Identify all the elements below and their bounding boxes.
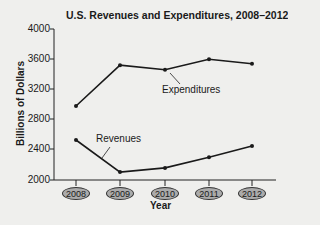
expenditures-line <box>76 59 252 106</box>
expenditures-annotation: Expenditures <box>162 84 220 95</box>
x-tick-2011: 2011 <box>195 187 223 200</box>
data-point <box>250 62 254 66</box>
x-tick-2010: 2010 <box>151 187 179 200</box>
x-tick-2009: 2009 <box>106 187 134 200</box>
expenditures-leader <box>170 73 180 84</box>
data-point <box>207 57 211 61</box>
revenues-annotation: Revenues <box>96 133 141 144</box>
revenues-leader <box>102 147 110 158</box>
data-point <box>207 155 211 159</box>
data-point <box>163 166 167 170</box>
data-point <box>74 104 78 108</box>
x-axis-label: Year <box>150 200 171 211</box>
data-point <box>250 144 254 148</box>
x-tick-2012: 2012 <box>238 187 266 200</box>
data-point <box>163 68 167 72</box>
data-point <box>118 170 122 174</box>
data-point <box>118 63 122 67</box>
data-point <box>74 138 78 142</box>
x-tick-2008: 2008 <box>62 187 90 200</box>
